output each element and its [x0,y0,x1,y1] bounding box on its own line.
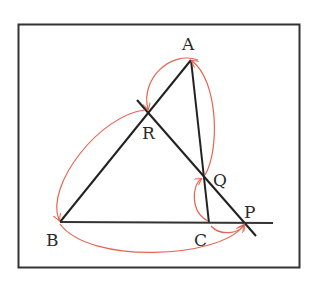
segment-ac [191,60,209,223]
geometry-diagram: A R Q P B C [0,0,317,288]
diagram-frame [19,25,300,268]
arc-b-to-p [60,224,243,252]
point-label-p: P [244,202,255,222]
point-label-c: C [194,230,207,250]
point-label-a: A [181,34,195,54]
point-label-q: Q [213,170,227,190]
arc-r-to-b [57,110,145,220]
segment-bc-extended [60,222,273,223]
point-label-r: R [142,123,156,143]
segment-ab [60,60,191,222]
arc-c-to-p [211,225,244,233]
arc-q-to-a [192,61,214,175]
transversal-line [137,100,256,236]
point-label-b: B [46,230,59,250]
